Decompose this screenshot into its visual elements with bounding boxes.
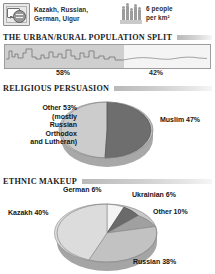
ethnic-ukrainian-label: Ukrainian 6% [132,191,176,200]
religion-pie-chart: Other 53% (mostly Russian Orthodox and L… [0,92,215,174]
urban-percent: 58% [56,69,70,76]
rural-percent: 42% [149,69,163,76]
languages-fact: Kazakh, Russian, German, Uigur [3,3,88,26]
header-rule [177,35,212,40]
ethnic-pie-chart: German 6% Ukrainian 6% Other 10% Kazakh … [0,186,215,274]
ethnic-header: ETHNIC MAKEUP [3,177,212,186]
infographic-page: Kazakh, Russian, German, Uigur 6 people … [0,0,215,274]
languages-text: Kazakh, Russian, German, Uigur [34,6,88,22]
ethnic-pie-svg [0,186,215,274]
religion-other-label: Other 53% (mostly Russian Orthodox and L… [3,104,77,147]
urban-rural-labels: 58% 42% [4,69,209,80]
religion-muslim-label: Muslim 47% [160,116,200,125]
ethnic-other-label: Other 10% [153,208,188,217]
header-rule [82,179,212,184]
urban-rural-title: THE URBAN/RURAL POPULATION SPLIT [3,33,172,42]
urban-rural-header: THE URBAN/RURAL POPULATION SPLIT [3,33,212,42]
urban-rural-chart [4,44,211,69]
speech-bubble-icon [3,3,30,26]
ethnic-kazakh-label: Kazakh 40% [8,209,48,218]
people-group-icon [120,3,142,24]
ethnic-german-label: German 6% [63,186,102,195]
facts-strip: Kazakh, Russian, German, Uigur 6 people … [0,0,215,31]
density-text: 6 people per km² [146,5,173,21]
ethnic-title: ETHNIC MAKEUP [3,177,77,186]
ethnic-russian-label: Russian 38% [133,258,176,267]
skyline-and-hills [5,45,208,66]
density-fact: 6 people per km² [120,3,173,24]
header-rule [114,86,212,91]
